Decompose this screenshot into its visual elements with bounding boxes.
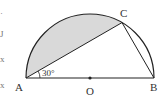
shaded-segment (26, 14, 122, 78)
cropped-text-3: x (0, 54, 5, 64)
cropped-text-4: x (0, 80, 5, 90)
label-b: B (150, 81, 157, 93)
chord-cb (122, 23, 154, 78)
label-a: A (15, 81, 23, 93)
angle-label: 30° (42, 68, 55, 78)
label-o: O (86, 85, 94, 97)
cropped-text-1: · (0, 8, 3, 18)
center-point-o (88, 76, 91, 79)
cropped-text-2: J (0, 29, 4, 39)
label-c: C (120, 7, 127, 19)
angle-mark (38, 71, 40, 78)
semicircle-diagram: A B O C 30° · J x x (0, 0, 168, 104)
